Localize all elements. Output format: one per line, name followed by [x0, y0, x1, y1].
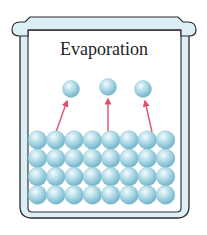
- liquid-molecule: [65, 131, 84, 150]
- liquid-molecule: [120, 186, 139, 205]
- liquid-molecule: [156, 167, 175, 186]
- evaporation-diagram: Evaporation: [0, 0, 207, 235]
- liquid-molecule: [101, 167, 120, 186]
- liquid-molecule: [138, 131, 157, 150]
- vapor-molecule: [63, 81, 80, 98]
- liquid-molecule: [101, 149, 120, 168]
- liquid-molecule: [138, 186, 157, 205]
- liquid-molecule: [83, 131, 102, 150]
- liquid-molecule: [156, 131, 175, 150]
- liquid-molecule: [120, 131, 139, 150]
- liquid-molecule: [28, 131, 47, 150]
- liquid-molecule: [120, 149, 139, 168]
- liquid-molecule: [28, 167, 47, 186]
- liquid-molecule: [28, 149, 47, 168]
- liquid-molecule: [65, 167, 84, 186]
- liquid-molecule: [101, 131, 120, 150]
- liquid-molecule: [47, 167, 66, 186]
- liquid-molecule: [83, 186, 102, 205]
- liquid-molecule: [120, 167, 139, 186]
- liquid-molecule: [138, 149, 157, 168]
- liquid-molecule: [156, 149, 175, 168]
- liquid-molecule: [65, 149, 84, 168]
- liquid-molecule: [28, 186, 47, 205]
- vapor-molecule: [135, 81, 152, 98]
- vapor-molecule: [100, 79, 117, 96]
- liquid-molecule: [47, 186, 66, 205]
- liquid-molecule: [83, 167, 102, 186]
- liquid-molecule: [47, 131, 66, 150]
- liquid-molecule: [101, 186, 120, 205]
- liquid-molecule: [156, 186, 175, 205]
- diagram-title: Evaporation: [60, 39, 148, 59]
- liquid-molecule: [65, 186, 84, 205]
- liquid-molecule: [83, 149, 102, 168]
- liquid-molecule: [47, 149, 66, 168]
- liquid-molecule: [138, 167, 157, 186]
